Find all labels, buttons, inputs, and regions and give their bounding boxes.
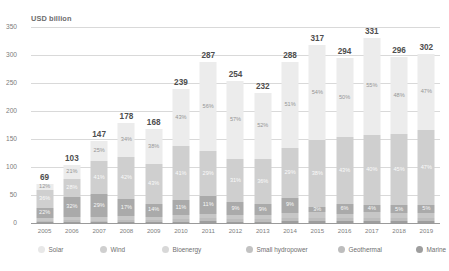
bar-segment[interactable] [145,222,162,223]
bar-segment[interactable]: 6% [336,204,353,213]
bar-segment[interactable]: 41% [91,161,108,194]
bar-segment[interactable]: 22% [36,208,53,219]
bar-segment[interactable]: 45% [391,134,408,206]
y-axis-tick-label: 300 [0,51,17,58]
bar-total-label: 331 [365,27,379,36]
bar-segment[interactable]: 38% [145,129,162,164]
bar-segment[interactable]: 48% [391,57,408,134]
bar-total-label: 147 [92,130,106,139]
bar-segment[interactable]: 41% [172,146,189,200]
bar-series-group: 12%36%22%6921%28%32%10325%41%29%14734%42… [31,27,440,223]
legend-item[interactable]: Geothermal [338,246,382,253]
bar-segment[interactable]: 29% [200,151,217,197]
bar-segment[interactable] [282,221,299,223]
bar-segment[interactable]: 36% [254,159,271,204]
bar-segment[interactable] [200,221,217,223]
bar-segment[interactable]: 56% [200,62,217,150]
bar-segment[interactable]: 38% [309,140,326,207]
bar-segment[interactable]: 55% [363,38,380,135]
x-axis-tick-label: 2015 [304,227,331,234]
x-axis-tick-label: 2017 [358,227,385,234]
bar-segment[interactable]: 42% [118,157,135,199]
stacked-bar[interactable]: 52%36%9% [254,93,271,223]
bar-segment[interactable]: 9% [282,198,299,213]
bar-segment[interactable]: 50% [336,58,353,136]
bar-segment[interactable]: 29% [91,194,108,217]
bar-total-label: 287 [201,51,215,60]
bar-segment[interactable]: 21% [63,165,80,178]
bar-segment[interactable]: 25% [91,141,108,161]
stacked-bar[interactable]: 25%41%29% [91,141,108,223]
x-axis-tick-label: 2012 [222,227,249,234]
bar-segment[interactable]: 43% [145,164,162,204]
bar-segment-label: 25% [94,148,105,154]
y-axis-unit-title: USD billion [31,14,72,23]
legend-label: Solar [49,246,64,253]
stacked-bar[interactable]: 55%40%4% [363,38,380,223]
bar-segment-label: 38% [312,171,323,177]
bar-segment[interactable]: 29% [282,148,299,197]
stacked-bar[interactable]: 38%43%14% [145,129,162,223]
legend-item[interactable]: Solar [38,246,63,253]
stacked-bar[interactable]: 56%29%11% [200,62,217,223]
bar-segment[interactable]: 31% [227,159,244,202]
bar-segment[interactable]: 9% [227,202,244,214]
legend-item[interactable]: Small hydropower [246,246,308,253]
bar-segment[interactable]: 43% [172,89,189,146]
bar-segment[interactable] [336,221,353,223]
bar-segment[interactable] [227,222,244,223]
bar-segment[interactable] [91,222,108,223]
bar-segment[interactable]: 5% [418,205,435,213]
bar-segment[interactable]: 51% [282,62,299,149]
stacked-bar[interactable]: 21%28%32% [63,165,80,223]
bar-segment-label: 41% [175,171,186,177]
bar-segment[interactable] [363,221,380,223]
bar-segment-label: 21% [66,169,77,175]
stacked-bar[interactable]: 51%29%9% [282,62,299,223]
bar-segment-label: 29% [284,170,295,176]
bar-segment[interactable]: 36% [36,190,53,207]
bar-segment-label: 31% [230,178,241,184]
bar-segment-label: 9% [231,206,239,212]
bar-segment[interactable] [418,221,435,223]
bar-segment[interactable]: 28% [63,179,80,197]
bar-segment[interactable]: 40% [363,135,380,206]
legend-item[interactable]: Wind [100,246,125,253]
legend-swatch-icon [38,246,45,253]
bar-segment[interactable]: 9% [254,204,271,215]
bar-segment[interactable]: 47% [418,54,435,130]
stacked-bar[interactable]: 47%47%5% [418,54,435,223]
stacked-bar[interactable]: 57%31%9% [227,81,244,223]
bar-segment[interactable]: 47% [418,130,435,206]
bar-segment[interactable]: 5% [391,205,408,213]
bar-segment[interactable] [118,222,135,223]
stacked-bar[interactable]: 48%45%5% [391,57,408,223]
bar-segment[interactable] [63,222,80,223]
x-axis-tick-label: 2014 [276,227,303,234]
bar-segment[interactable]: 43% [336,137,353,204]
bar-segment[interactable] [391,221,408,223]
legend-item[interactable]: Bioenergy [162,246,201,253]
bar-segment[interactable]: 4% [363,205,380,212]
bar-segment-label: 5% [422,206,430,212]
bar-segment[interactable]: 32% [63,197,80,218]
bar-segment[interactable]: 11% [172,200,189,215]
bar-segment[interactable]: 17% [118,199,135,216]
bar-segment[interactable]: 34% [118,123,135,157]
bar-segment[interactable]: 52% [254,93,271,159]
stacked-bar[interactable]: 54%38%3% [309,45,326,223]
bar-segment[interactable]: 14% [145,204,162,217]
bar-segment-label: 51% [284,102,295,108]
stacked-bar[interactable]: 50%43%6% [336,58,353,223]
bar-segment[interactable] [309,221,326,223]
bar-segment[interactable]: 57% [227,81,244,160]
stacked-bar[interactable]: 12%36%22% [36,184,53,223]
stacked-bar[interactable]: 43%41%11% [172,89,189,223]
bar-segment[interactable] [254,222,271,223]
bar-segment[interactable] [172,222,189,223]
bar-segment-label: 5% [395,207,403,213]
bar-segment[interactable]: 54% [309,45,326,140]
bar-segment[interactable]: 11% [200,196,217,213]
legend-item[interactable]: Marine [416,246,446,253]
stacked-bar[interactable]: 34%42%17% [118,123,135,223]
